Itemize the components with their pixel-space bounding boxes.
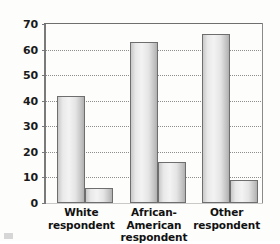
corner-swatch	[4, 233, 13, 239]
bar-1-1	[57, 96, 85, 203]
category-label-line1: Other	[184, 206, 269, 219]
y-tick-40: 40	[8, 95, 38, 107]
y-tick-10: 10	[8, 171, 38, 183]
y-tick-label-20: 20	[12, 146, 38, 159]
category-label-line2: respondent	[112, 231, 197, 244]
y-tick-label-0: 0	[12, 197, 38, 210]
y-tick-70: 70	[8, 18, 38, 30]
bars-group	[45, 24, 263, 203]
category-label-line2: respondent	[184, 219, 269, 232]
bar-3-1	[202, 34, 230, 203]
y-tick-label-70: 70	[12, 18, 38, 31]
y-tick-0: 0	[8, 197, 38, 209]
y-tick-label-30: 30	[12, 120, 38, 133]
bar-3-2	[230, 180, 258, 203]
bar-1-2	[85, 188, 113, 203]
x-axis-line	[44, 203, 263, 204]
bar-2-2	[158, 162, 186, 203]
y-tick-mark-0	[42, 203, 46, 204]
y-tick-60: 60	[8, 44, 38, 56]
y-tick-label-40: 40	[12, 95, 38, 108]
bar-2-1	[130, 42, 158, 203]
category-label-3: Otherrespondent	[184, 206, 269, 231]
y-tick-30: 30	[8, 120, 38, 132]
y-tick-50: 50	[8, 69, 38, 81]
y-tick-label-60: 60	[12, 44, 38, 57]
y-tick-label-10: 10	[12, 171, 38, 184]
y-tick-label-50: 50	[12, 69, 38, 82]
y-tick-20: 20	[8, 146, 38, 158]
x-axis-category-labels: WhiterespondentAfrican-Americanresponden…	[45, 206, 263, 240]
